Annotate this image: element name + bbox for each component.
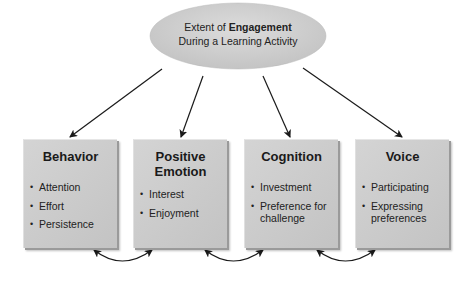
box-items: Participating Expressing preferences — [356, 181, 449, 225]
arrow-to-positive-emotion — [181, 76, 203, 137]
box-item: Expressing preferences — [362, 200, 449, 225]
box-items: Investment Preference for challenge — [245, 181, 338, 225]
box-cognition: Cognition Investment Preference for chal… — [244, 139, 338, 248]
bidirectional-arrow-emotion-cognition — [205, 250, 263, 261]
box-title-line2: Emotion — [134, 164, 227, 179]
central-label: Extent of Engagement During a Learning A… — [148, 20, 328, 48]
box-items: Attention Effort Persistence — [24, 181, 117, 231]
central-label-bold: Engagement — [229, 21, 292, 33]
box-title: Cognition — [245, 149, 338, 164]
box-title-line1: Positive — [134, 149, 227, 164]
box-item: Effort — [30, 200, 117, 213]
box-positive-emotion: Positive Emotion Interest Enjoyment — [133, 139, 227, 248]
box-item: Preference for challenge — [251, 200, 338, 225]
box-behavior: Behavior Attention Effort Persistence — [23, 139, 117, 248]
box-item: Participating — [362, 181, 449, 194]
box-item: Attention — [30, 181, 117, 194]
box-title: Behavior — [24, 149, 117, 164]
box-item: Persistence — [30, 218, 117, 231]
bidirectional-arrow-behavior-emotion — [94, 250, 152, 261]
arrow-to-voice — [303, 68, 402, 137]
box-item: Investment — [251, 181, 338, 194]
box-title: Positive Emotion — [134, 149, 227, 179]
bidirectional-arrow-cognition-voice — [317, 250, 375, 261]
arrow-to-behavior — [70, 69, 162, 137]
central-label-prefix: Extent of — [184, 21, 228, 33]
box-item: Interest — [140, 188, 227, 201]
box-voice: Voice Participating Expressing preferenc… — [355, 139, 449, 248]
central-label-line2: During a Learning Activity — [148, 34, 328, 48]
box-items: Interest Enjoyment — [134, 188, 227, 219]
arrow-to-cognition — [263, 76, 290, 137]
box-title: Voice — [356, 149, 449, 164]
box-item: Enjoyment — [140, 207, 227, 220]
